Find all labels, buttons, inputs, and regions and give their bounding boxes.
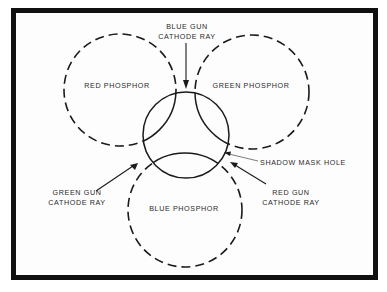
crt-shadow-mask-diagram: BLUE GUN CATHODE RAY RED PHOSPHOR GREEN … — [0, 0, 387, 292]
blue-phosphor-label: BLUE PHOSPHOR — [149, 204, 219, 213]
green-gun-label-line2: CATHODE RAY — [48, 198, 105, 207]
blue-gun-label-line2: CATHODE RAY — [158, 32, 215, 41]
shadow-mask-hole-label: SHADOW MASK HOLE — [260, 158, 346, 167]
blue-gun-label-line1: BLUE GUN — [166, 22, 208, 31]
red-gun-label-line2: CATHODE RAY — [262, 198, 319, 207]
red-phosphor-label: RED PHOSPHOR — [84, 81, 150, 90]
red-gun-label-line1: RED GUN — [272, 188, 309, 197]
green-gun-label-line1: GREEN GUN — [53, 188, 102, 197]
green-phosphor-label: GREEN PHOSPHOR — [212, 81, 289, 90]
